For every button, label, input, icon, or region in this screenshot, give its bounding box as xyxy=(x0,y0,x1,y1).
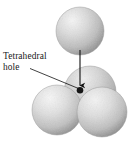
tetrahedral-hole-dot xyxy=(77,87,84,94)
sphere-front-left xyxy=(32,85,82,135)
sphere-front-right xyxy=(77,87,127,137)
tetrahedral-hole-figure: Tetrahedral hole xyxy=(0,0,132,145)
label-line-2: hole xyxy=(3,62,65,73)
tetrahedral-hole-label: Tetrahedral hole xyxy=(3,51,65,72)
sphere-top xyxy=(56,7,104,55)
label-line-1: Tetrahedral xyxy=(3,51,65,62)
figure-canvas xyxy=(0,0,132,145)
